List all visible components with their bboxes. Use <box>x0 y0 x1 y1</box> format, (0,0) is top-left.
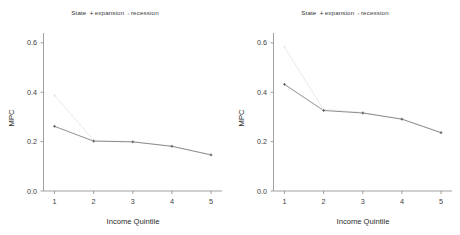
chart-panel-right: State+expansion•recession 0.00.20.40.6 1… <box>230 0 460 235</box>
x-ticks-left: 12345 <box>52 191 213 206</box>
svg-text:3: 3 <box>131 197 135 206</box>
series-points-recession-right <box>283 46 442 134</box>
svg-text:0.4: 0.4 <box>257 88 267 97</box>
svg-text:5: 5 <box>209 197 213 206</box>
svg-text:0.2: 0.2 <box>257 137 267 146</box>
svg-text:4: 4 <box>400 197 404 206</box>
y-ticks-left: 0.00.20.40.6 <box>27 38 44 195</box>
x-ticks-right: 12345 <box>282 191 443 206</box>
y-axis-title-left: MPC <box>7 109 16 126</box>
svg-text:2: 2 <box>322 197 326 206</box>
svg-text:0.0: 0.0 <box>27 187 37 196</box>
plot-area-right: 0.00.20.40.6 12345 Income Quintile MPC <box>230 0 460 235</box>
svg-text:1: 1 <box>282 197 286 206</box>
series-line-expansion-right <box>284 84 441 132</box>
svg-text:0.6: 0.6 <box>27 38 37 47</box>
svg-text:3: 3 <box>361 197 365 206</box>
svg-text:1: 1 <box>52 197 56 206</box>
svg-text:0.2: 0.2 <box>27 137 37 146</box>
series-line-recession-right <box>284 47 441 132</box>
series-points-expansion-left <box>53 125 212 156</box>
figure-container: State+expansion•recession 0.00.20.40.6 1… <box>0 0 460 235</box>
svg-text:0.6: 0.6 <box>257 38 267 47</box>
series-points-recession-left <box>53 94 212 156</box>
svg-text:0.0: 0.0 <box>257 187 267 196</box>
x-axis-title-right: Income Quintile <box>337 217 390 226</box>
plot-area-left: 0.00.20.40.6 12345 Income Quintile MPC <box>0 0 230 235</box>
series-line-recession-left <box>54 95 211 154</box>
svg-text:5: 5 <box>439 197 443 206</box>
y-axis-title-right: MPC <box>237 109 246 126</box>
x-axis-title-left: Income Quintile <box>107 217 160 226</box>
svg-text:0.4: 0.4 <box>27 88 37 97</box>
series-points-expansion-right <box>283 83 442 134</box>
y-ticks-right: 0.00.20.40.6 <box>257 38 274 195</box>
chart-panel-left: State+expansion•recession 0.00.20.40.6 1… <box>0 0 230 235</box>
svg-text:4: 4 <box>170 197 174 206</box>
svg-text:2: 2 <box>92 197 96 206</box>
